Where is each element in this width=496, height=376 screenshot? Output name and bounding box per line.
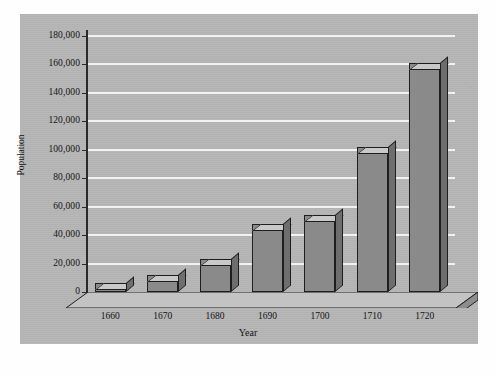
x-axis-tick-label: 1720 <box>401 311 449 321</box>
x-axis-tick-label: 1700 <box>296 311 344 321</box>
y-axis-tick-mark <box>82 178 87 179</box>
x-axis-tick-label: 1670 <box>139 311 187 321</box>
y-axis-line <box>86 30 88 295</box>
x-axis-tick-label: 1660 <box>86 311 134 321</box>
bar <box>357 147 388 292</box>
y-axis-tick-mark <box>82 121 87 122</box>
x-axis-tick-label: 1680 <box>191 311 239 321</box>
bar-face <box>252 224 283 292</box>
floor-slab <box>66 292 478 308</box>
y-axis-tick-label: 20,000 <box>20 259 80 269</box>
bar-side-face <box>335 208 343 292</box>
gridline <box>88 92 455 94</box>
y-axis-tick-label: 120,000 <box>20 116 80 126</box>
y-axis-tick-label: 160,000 <box>20 59 80 69</box>
gridline <box>88 63 455 65</box>
gridline <box>88 149 455 151</box>
y-axis-tick-label: 60,000 <box>20 202 80 212</box>
y-axis-tick-label: 140,000 <box>20 88 80 98</box>
bar <box>409 63 440 292</box>
y-axis-tick-mark <box>82 207 87 208</box>
floor-slab-shape <box>66 292 478 308</box>
gridline <box>88 177 455 179</box>
y-axis-tick-mark <box>82 36 87 37</box>
y-axis-tick-label: 100,000 <box>20 145 80 155</box>
chart-figure: 020,00040,00060,00080,000100,000120,0001… <box>0 0 496 376</box>
bar-side-face <box>440 56 448 292</box>
bar <box>252 224 283 292</box>
bar-side-face <box>231 253 239 292</box>
bar <box>304 215 335 292</box>
y-axis-tick-label: 40,000 <box>20 230 80 240</box>
edge-speck-mark: ' <box>469 86 472 93</box>
gridline <box>88 35 455 37</box>
bar-side-face <box>283 217 291 292</box>
y-axis-tick-mark <box>82 93 87 94</box>
bar <box>95 283 126 292</box>
y-axis-tick-label: 80,000 <box>20 173 80 183</box>
bar <box>200 259 231 292</box>
gridline <box>88 120 455 122</box>
bar <box>147 275 178 292</box>
y-axis-tick-label: 180,000 <box>20 31 80 41</box>
bar-face <box>409 63 440 292</box>
y-axis-tick-mark <box>82 264 87 265</box>
y-axis-tick-mark <box>82 64 87 65</box>
x-axis-tick-label: 1690 <box>244 311 292 321</box>
x-axis-title: Year <box>0 327 496 338</box>
y-axis-tick-mark <box>82 235 87 236</box>
y-axis-tick-mark <box>82 150 87 151</box>
bar-side-face <box>388 140 396 292</box>
bar-face <box>357 147 388 292</box>
y-axis-title: Population <box>16 110 26 200</box>
gridline <box>88 206 455 208</box>
x-axis-tick-label: 1710 <box>348 311 396 321</box>
bar-face <box>304 215 335 292</box>
